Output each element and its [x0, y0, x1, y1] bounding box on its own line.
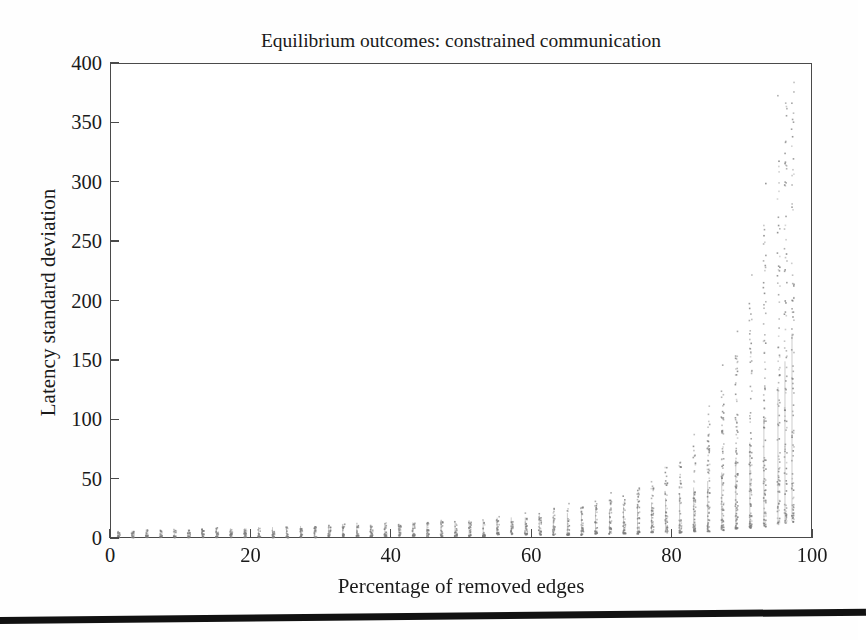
- y-axis-tick: [110, 419, 119, 420]
- y-axis-tick: [110, 122, 119, 123]
- x-axis-label: Percentage of removed edges: [110, 576, 812, 597]
- page-divider-rule: [0, 609, 866, 624]
- y-axis-tick: [110, 478, 119, 479]
- y-axis-tick: [110, 300, 119, 301]
- plot-area: [110, 63, 812, 538]
- y-axis-tick-label: 400: [40, 53, 102, 74]
- y-axis-tick-label: 50: [40, 469, 102, 490]
- y-axis-tick: [110, 240, 119, 241]
- x-axis-tick: [671, 529, 672, 538]
- y-axis-tick: [110, 537, 119, 538]
- x-axis-tick: [250, 529, 251, 538]
- x-axis-tick: [531, 529, 532, 538]
- x-axis-tick: [109, 529, 110, 538]
- x-axis-tick-label: 0: [70, 545, 150, 566]
- scatter-plot-canvas: [111, 64, 813, 539]
- x-axis-tick-label: 80: [632, 545, 712, 566]
- x-axis-tick-label: 60: [491, 545, 571, 566]
- chart-title: Equilibrium outcomes: constrained commun…: [110, 31, 812, 51]
- y-axis-tick: [110, 62, 119, 63]
- y-axis-tick-label: 350: [40, 112, 102, 133]
- y-axis-tick: [110, 359, 119, 360]
- x-axis-tick-label: 40: [351, 545, 431, 566]
- x-axis-tick: [390, 529, 391, 538]
- y-axis-label: Latency standard deviation: [38, 153, 59, 453]
- x-axis-tick-label: 100: [772, 545, 852, 566]
- x-axis-tick: [811, 529, 812, 538]
- y-axis-tick: [110, 181, 119, 182]
- x-axis-tick-label: 20: [210, 545, 290, 566]
